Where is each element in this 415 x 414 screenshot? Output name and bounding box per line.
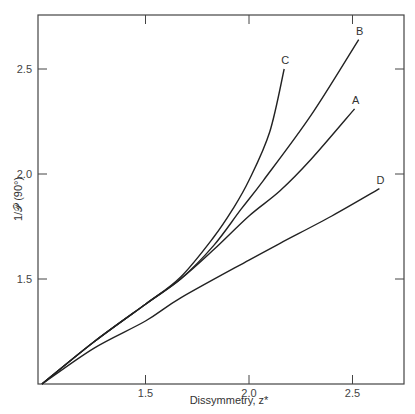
- axis-ticks: [38, 15, 404, 384]
- chart: 1.52.02.51.52.02.5 ABCD Dissymmetry, z* …: [0, 0, 415, 414]
- curve-labels: ABCD: [281, 25, 384, 186]
- curve-d: [42, 189, 379, 384]
- curve-c: [42, 69, 284, 384]
- curve-a: [42, 109, 355, 384]
- y-axis-label: 1/𝒫 (90°): [12, 177, 24, 221]
- y-tick-label: 1.5: [17, 273, 32, 285]
- x-tick-label: 1.5: [138, 387, 153, 399]
- y-tick-label: 2.5: [17, 63, 32, 75]
- axis-tick-labels: 1.52.02.51.52.02.5: [17, 63, 360, 399]
- curve-label-c: C: [281, 54, 289, 66]
- x-axis-label: Dissymmetry, z*: [190, 394, 269, 406]
- curve-label-b: B: [356, 25, 363, 37]
- curve-label-a: A: [352, 94, 360, 106]
- curve-b: [42, 40, 359, 384]
- curves: [42, 40, 379, 384]
- x-tick-label: 2.5: [345, 387, 360, 399]
- curve-label-d: D: [376, 174, 384, 186]
- plot-frame: [38, 15, 404, 384]
